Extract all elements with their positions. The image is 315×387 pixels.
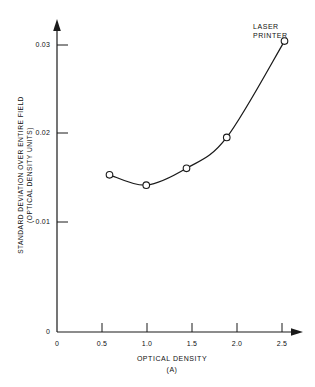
data-series-line-laser-printer (110, 41, 285, 185)
x-tick-label-2.5: 2.5 (270, 340, 294, 347)
annotation-line1: LASER (253, 22, 288, 31)
y-tick-label-0: 0 (22, 328, 50, 335)
y-axis-arrowhead (53, 19, 61, 31)
y-axis-title: STANDARD DEVIATION OVER ENTIRE FIELD (OP… (10, 75, 32, 275)
x-axis-subtitle: (A) (107, 366, 237, 373)
x-tick-marks (102, 323, 282, 332)
x-tick-label-1.0: 1.0 (135, 340, 159, 347)
y-axis-title-line2: (OPTICAL DENSITY UNITS) (26, 75, 33, 275)
x-tick-label-2.0: 2.0 (225, 340, 249, 347)
y-axis-title-line1: STANDARD DEVIATION OVER ENTIRE FIELD (17, 75, 24, 275)
annotation-line2: PRINTER (253, 31, 288, 40)
x-tick-label-0: 0 (45, 340, 69, 347)
axes-group (53, 19, 303, 336)
data-point-marker (223, 134, 230, 141)
annotation-laser-printer: LASER PRINTER (253, 22, 288, 40)
data-point-markers (106, 38, 288, 189)
data-point-marker (183, 165, 190, 172)
x-axis-arrowhead (291, 328, 303, 336)
y-tick-marks (57, 45, 68, 222)
data-point-marker (106, 172, 113, 179)
data-point-marker (143, 182, 150, 189)
x-axis-title: OPTICAL DENSITY (107, 355, 237, 362)
chart-figure: 0.03 0.02 0.01 0 0 0.5 1.0 1.5 2.0 2.5 O… (0, 0, 315, 387)
x-tick-label-0.5: 0.5 (90, 340, 114, 347)
y-tick-label-0.03: 0.03 (22, 41, 50, 48)
x-tick-label-1.5: 1.5 (180, 340, 204, 347)
